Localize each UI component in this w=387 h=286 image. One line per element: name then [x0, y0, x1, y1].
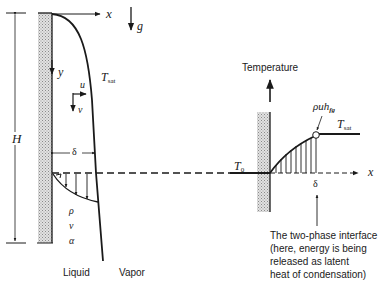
temperature-axis-label: Temperature — [242, 63, 298, 73]
rho-label: ρ — [69, 206, 74, 216]
t0-label: T0 — [234, 160, 244, 174]
vapor-label: Vapor — [119, 268, 145, 278]
alpha-label: α — [69, 236, 74, 246]
delta-label: δ — [72, 147, 77, 157]
v-label: v — [78, 105, 82, 115]
energy-flux-label: ρuhfg — [313, 101, 335, 114]
interface-note: The two-phase interface (here, energy is… — [270, 229, 377, 281]
right-wall — [257, 112, 270, 212]
left-wall — [38, 13, 52, 121]
nu-label: ν — [69, 221, 73, 231]
condensation-diagram: x g y Tsat u v H δ ρ ν α Liquid Vapor Te… — [0, 0, 387, 286]
u-label: u — [80, 80, 85, 90]
x-axis-label: x — [106, 7, 112, 20]
temperature-profile — [270, 136, 315, 173]
interface-point — [313, 132, 320, 139]
right-tsat-label: Tsat — [337, 118, 351, 132]
velocity-profile — [53, 174, 98, 202]
y-axis-label: y — [58, 66, 63, 78]
film-boundary — [52, 14, 103, 261]
tsat-label: Tsat — [101, 71, 115, 85]
right-x-axis-label: x — [368, 166, 373, 178]
right-delta-label: δ — [313, 179, 318, 189]
gravity-label: g — [137, 20, 143, 32]
height-label: H — [12, 132, 21, 145]
liquid-label: Liquid — [63, 268, 90, 278]
